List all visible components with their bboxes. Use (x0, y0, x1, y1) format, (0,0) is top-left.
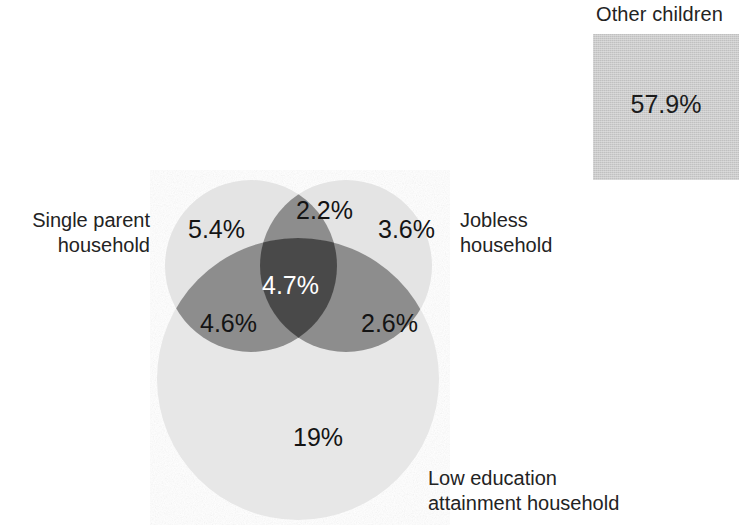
value-single-parent-low-education: 4.6% (200, 311, 257, 336)
other-children-label: Other children (596, 2, 723, 26)
set-label-low-education-household: Low education attainment household (428, 466, 619, 516)
set-label-jobless-household: Jobless household (460, 208, 552, 258)
set-label-line2: household (460, 233, 552, 258)
value-low-education-only: 19% (293, 425, 343, 450)
set-label-line1: Low education (428, 467, 557, 489)
set-label-single-parent-household: Single parent household (8, 208, 150, 258)
value-jobless-low-education: 2.6% (361, 311, 418, 336)
venn-diagram: 5.4% 2.2% 3.6% 4.7% 4.6% 2.6% 19% (150, 170, 450, 525)
set-label-line1: Single parent (32, 209, 150, 231)
set-label-line2: household (8, 233, 150, 258)
other-children-rect: 57.9% (593, 34, 739, 180)
set-label-line2: attainment household (428, 491, 619, 516)
value-jobless-only: 3.6% (378, 217, 435, 242)
value-single-parent-only: 5.4% (188, 217, 245, 242)
other-children-value: 57.9% (593, 90, 739, 119)
figure-canvas: Other children 57.9% (0, 0, 739, 529)
value-all-three: 4.7% (262, 273, 319, 298)
value-single-parent-jobless: 2.2% (296, 198, 353, 223)
set-label-line1: Jobless (460, 209, 528, 231)
